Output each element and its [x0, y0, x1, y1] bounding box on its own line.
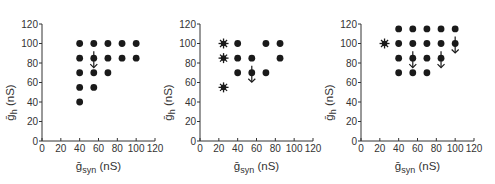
x-tick-label: 80: [431, 143, 443, 154]
dot-marker: [438, 40, 445, 47]
dot-marker: [438, 25, 445, 32]
panel-3: 020406080100120020406080100120ḡsyn (nS)…: [0, 0, 165, 184]
y-tick-label: 40: [346, 97, 358, 108]
x-tick-label: 40: [393, 143, 405, 154]
axes: 020406080100120020406080100120ḡsyn (nS)…: [323, 19, 483, 176]
dot-marker: [395, 55, 402, 62]
dot-marker: [395, 25, 402, 32]
x-tick-label: 0: [358, 143, 364, 154]
y-tick-label: 20: [346, 116, 358, 127]
dot-marker: [424, 40, 431, 47]
dot-marker: [409, 69, 416, 76]
dot-marker: [424, 69, 431, 76]
y-tick-label: 80: [346, 58, 358, 69]
y-tick-label: 100: [340, 38, 357, 49]
dot-marker: [424, 25, 431, 32]
star-marker: [380, 39, 390, 49]
data-points: [380, 25, 459, 76]
dot-marker: [452, 25, 459, 32]
dot-marker: [424, 55, 431, 62]
x-tick-label: 120: [466, 143, 483, 154]
y-axis-title: ḡh (nS): [323, 84, 338, 121]
x-tick-label: 20: [374, 143, 386, 154]
x-tick-label: 60: [412, 143, 424, 154]
y-tick-label: 60: [346, 77, 358, 88]
scatter-plot-3: 020406080100120020406080100120ḡsyn (nS)…: [0, 0, 495, 184]
y-tick-label: 0: [351, 136, 357, 147]
dot-marker: [409, 40, 416, 47]
y-tick-label: 120: [340, 19, 357, 30]
dot-marker: [395, 69, 402, 76]
x-axis-title: ḡsyn (nS): [395, 160, 441, 175]
dot-marker: [409, 25, 416, 32]
x-tick-label: 100: [447, 143, 464, 154]
dot-marker: [395, 40, 402, 47]
